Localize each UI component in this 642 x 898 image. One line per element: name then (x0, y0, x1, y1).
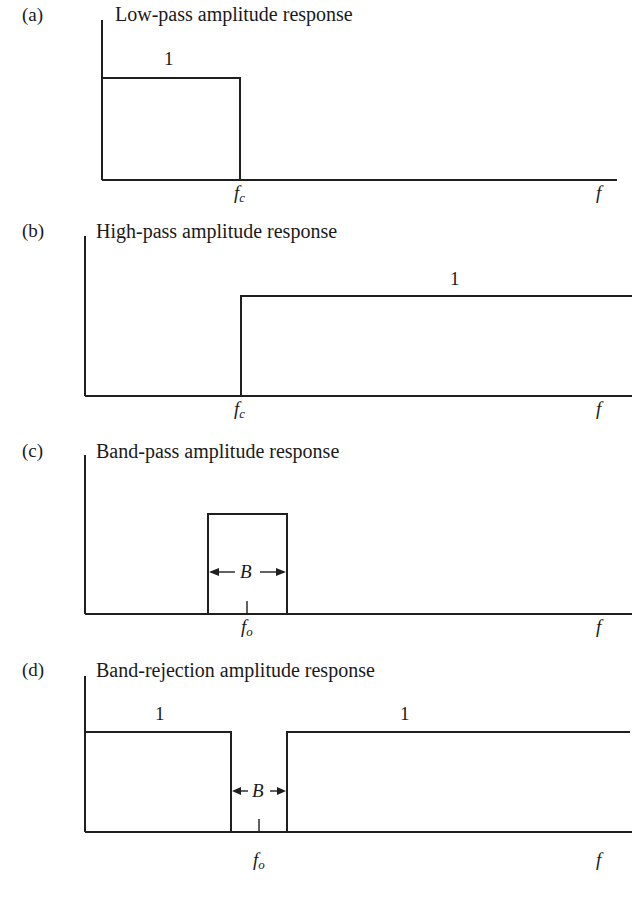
panel-a-graph (102, 20, 617, 180)
panel-d-center-label: fo (253, 849, 265, 873)
panel-d-title: Band-rejection amplitude response (96, 659, 375, 682)
panel-a-axis-label: f (596, 182, 601, 204)
panel-a-amplitude-label: 1 (164, 48, 174, 70)
panel-b-title: High-pass amplitude response (96, 220, 337, 243)
panel-a-label: (a) (22, 4, 43, 26)
panel-a-cutoff-label: fc (234, 182, 245, 206)
panel-b-amplitude-label: 1 (450, 268, 460, 290)
panel-d-amplitude-label-left: 1 (155, 703, 165, 725)
panel-d-amplitude-label-right: 1 (400, 703, 410, 725)
panel-d-axis-label: f (596, 849, 601, 871)
highpass-response (241, 296, 632, 396)
panel-c-title: Band-pass amplitude response (96, 440, 339, 463)
bandreject-response-right (287, 732, 630, 832)
panel-b-label: (b) (22, 220, 44, 242)
panel-c-label: (c) (22, 440, 43, 462)
panel-d-bandwidth-label: B (252, 780, 264, 802)
panel-c-center-label: fo (241, 616, 253, 640)
panel-c-graph (85, 455, 632, 614)
bandreject-response-left (85, 732, 231, 832)
panel-d-label: (d) (22, 659, 44, 681)
panel-b-cutoff-label: fc (234, 398, 245, 422)
panel-c-bandwidth-label: B (240, 561, 252, 583)
panel-b-axis-label: f (596, 398, 601, 420)
panel-d-graph (85, 676, 632, 832)
lowpass-response (102, 78, 240, 180)
panel-b-graph (85, 236, 632, 396)
panel-c-axis-label: f (596, 616, 601, 638)
panel-a-title: Low-pass amplitude response (115, 3, 353, 26)
